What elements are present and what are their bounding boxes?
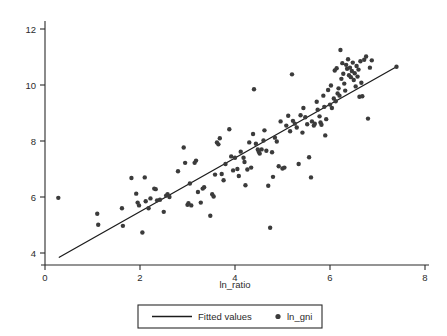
data-point	[158, 198, 162, 202]
data-point	[359, 81, 363, 85]
data-point	[182, 145, 186, 149]
data-point	[243, 183, 247, 187]
data-point	[208, 214, 212, 218]
data-point	[189, 203, 193, 207]
x-axis-title: ln_ratio	[219, 279, 250, 290]
legend-label-ln-gni: ln_gni	[287, 311, 312, 322]
data-point	[323, 133, 327, 137]
data-point	[339, 77, 343, 81]
data-point	[140, 230, 144, 234]
data-point	[364, 54, 368, 58]
data-point	[340, 61, 344, 65]
data-point	[324, 117, 328, 121]
data-point	[270, 150, 274, 154]
data-point	[300, 130, 304, 134]
data-point	[213, 172, 217, 176]
x-tick-label-0: 0	[42, 272, 47, 283]
data-point	[305, 122, 309, 126]
data-point	[176, 169, 180, 173]
data-point	[229, 154, 233, 158]
y-tick-label-12: 12	[25, 24, 36, 35]
data-point	[368, 65, 372, 69]
data-point	[358, 59, 362, 63]
data-point	[288, 129, 292, 133]
data-point	[326, 88, 330, 92]
data-point	[227, 127, 231, 131]
data-point	[188, 181, 192, 185]
data-point	[96, 223, 100, 227]
data-point	[153, 187, 157, 191]
data-point	[319, 123, 323, 127]
data-point	[211, 194, 215, 198]
data-point	[366, 116, 370, 120]
data-point	[329, 83, 333, 87]
data-point	[271, 175, 275, 179]
data-point	[146, 206, 150, 210]
data-point	[121, 224, 125, 228]
data-point	[356, 67, 360, 71]
data-point	[370, 58, 374, 62]
x-tick-label-2: 2	[137, 272, 142, 283]
data-point	[286, 114, 290, 118]
data-point	[183, 161, 187, 165]
data-point	[344, 63, 348, 67]
data-point	[330, 106, 334, 110]
data-point	[199, 200, 203, 204]
data-point	[307, 155, 311, 159]
data-point	[231, 168, 235, 172]
data-point	[252, 87, 256, 91]
data-point	[293, 121, 297, 125]
data-point	[351, 60, 355, 64]
data-point	[268, 226, 272, 230]
data-point	[309, 175, 313, 179]
data-point	[220, 172, 224, 176]
data-point	[241, 156, 245, 160]
data-point	[315, 100, 319, 104]
data-point	[95, 212, 99, 216]
data-point	[251, 132, 255, 136]
data-point	[258, 151, 262, 155]
data-point	[394, 65, 398, 69]
data-point	[221, 178, 225, 182]
data-point	[290, 72, 294, 76]
data-point	[336, 86, 340, 90]
data-point	[120, 206, 124, 210]
data-point	[196, 190, 200, 194]
data-point	[301, 106, 305, 110]
data-point	[321, 93, 325, 97]
y-tick-label-4: 4	[31, 248, 36, 259]
data-point	[273, 135, 277, 139]
data-point	[167, 195, 171, 199]
data-point	[346, 57, 350, 61]
data-point	[216, 142, 220, 146]
data-point	[342, 81, 346, 85]
legend-label-fitted-values: Fitted values	[198, 311, 252, 322]
data-point	[137, 203, 141, 207]
data-point	[322, 105, 326, 109]
data-point	[295, 125, 299, 129]
data-point	[235, 167, 239, 171]
data-point	[266, 184, 270, 188]
data-point	[353, 71, 357, 75]
data-point	[353, 84, 357, 88]
data-point	[254, 142, 258, 146]
data-point	[284, 123, 288, 127]
data-point	[134, 191, 138, 195]
chart-figure: 02468 4681012 ln_ratio Fitted valuesln_g…	[0, 0, 447, 336]
data-point	[282, 165, 286, 169]
data-point	[278, 119, 282, 123]
data-point	[233, 156, 237, 160]
data-point	[352, 78, 356, 82]
data-point	[313, 121, 317, 125]
data-point	[144, 199, 148, 203]
data-point	[247, 140, 251, 144]
data-point	[277, 164, 281, 168]
data-point	[338, 48, 342, 52]
data-point	[237, 174, 241, 178]
data-point	[341, 72, 345, 76]
data-point	[143, 175, 147, 179]
y-tick-label-8: 8	[31, 136, 36, 147]
data-point	[296, 162, 300, 166]
data-point	[343, 88, 347, 92]
data-point	[239, 149, 243, 153]
